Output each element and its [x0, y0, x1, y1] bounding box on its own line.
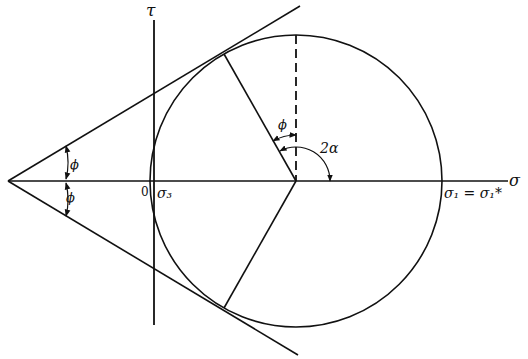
sigma1-label: σ₁ = σ₁*	[444, 186, 502, 200]
lower-radius	[224, 181, 296, 308]
phi-lower-apex-label: ϕ	[66, 191, 75, 204]
sigma3-label: σ₃	[157, 186, 172, 200]
mohr-circle-diagram: τ σ 0 σ₃ σ₁ = σ₁* ϕ ϕ ϕ 2α	[0, 0, 528, 359]
origin-label: 0	[141, 186, 149, 198]
phi-arc-upper-apex	[66, 146, 68, 179]
phi-center-label: ϕ	[278, 118, 287, 131]
tau-axis-label: τ	[146, 2, 155, 19]
sigma-axis-label: σ	[509, 173, 520, 189]
two-alpha-label: 2α	[320, 141, 338, 155]
phi-arc-center	[273, 135, 296, 141]
phi-upper-apex-label: ϕ	[70, 158, 79, 171]
diagram-canvas	[0, 0, 528, 359]
